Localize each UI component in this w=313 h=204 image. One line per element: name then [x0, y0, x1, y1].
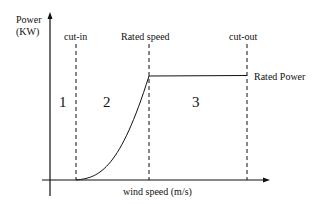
region-2-label: 2	[103, 94, 111, 110]
region-1-label: 1	[59, 94, 67, 110]
x-axis-label: wind speed (m/s)	[123, 186, 192, 197]
cut-out-label: cut-out	[229, 31, 257, 42]
rated-speed-label: Rated speed	[121, 31, 170, 42]
region-3-label: 3	[192, 94, 200, 110]
power-curve	[76, 76, 247, 181]
rated-power-label: Rated Power	[254, 71, 305, 82]
cut-in-label: cut-in	[64, 31, 87, 42]
y-axis-label-line2: (KW)	[16, 26, 39, 37]
x-axis-arrow-icon	[263, 178, 270, 183]
y-axis-label-line1: Power	[16, 14, 42, 25]
y-axis-arrow-icon	[48, 12, 53, 19]
